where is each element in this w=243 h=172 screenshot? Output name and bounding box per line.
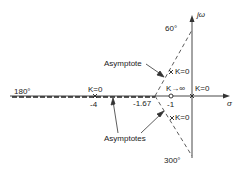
tick-minus4: -4	[90, 100, 97, 109]
asymptotes-pointer-left-head-icon	[111, 98, 115, 105]
real-axis-label: σ	[227, 99, 232, 108]
tick-centroid: -1.67	[133, 99, 151, 108]
angle-300-label: 300°	[164, 156, 181, 165]
pole-minus4-label: K=0	[88, 85, 102, 94]
pole-lower-label: K=0	[175, 113, 189, 122]
real-axis-arrow-icon	[223, 94, 230, 99]
asymptotes-pointer-right-head-icon	[157, 111, 164, 117]
asymptotes-pointer-left	[113, 101, 118, 133]
zero-minus1-icon	[169, 94, 173, 98]
imag-axis-arrow-icon	[190, 15, 195, 22]
pole-upper-icon	[169, 70, 173, 74]
angle-60-label: 60°	[165, 24, 177, 33]
root-locus-diagram: jω σ 60° 180° 300° K=0 K=0 K=0 K=0 K→∞ -…	[0, 0, 243, 172]
pole-lower-icon	[170, 116, 174, 120]
pole-upper-label: K=0	[175, 67, 189, 76]
pole-origin-label: K=0	[195, 84, 209, 93]
asymptote-annotation: Asymptote	[104, 59, 142, 68]
imag-axis-label: jω	[197, 10, 205, 19]
zero-label: K→∞	[166, 84, 185, 93]
tick-minus1: -1	[167, 100, 174, 109]
angle-180-label: 180°	[14, 87, 31, 96]
asymptotes-annotation: Asymptotes	[104, 134, 146, 143]
